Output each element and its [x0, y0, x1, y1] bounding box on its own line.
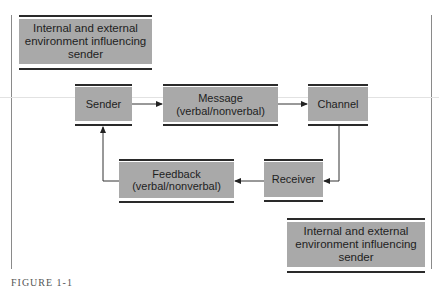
- arrow-channel-to-receiver: [324, 126, 339, 181]
- arrow-feedback-to-sender: [103, 127, 119, 181]
- figure-caption: FIGURE 1-1: [11, 277, 73, 288]
